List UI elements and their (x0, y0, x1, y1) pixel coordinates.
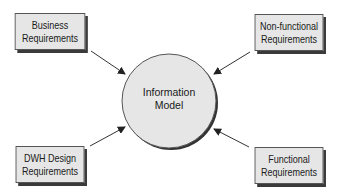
information-model-label: Information Model (122, 86, 216, 112)
dwh-design-requirements-box: DWH Design Requirements (16, 146, 85, 183)
arrow-functional-to-model (214, 129, 249, 147)
functional-line1: Functional (261, 153, 317, 166)
business-line1: Business (22, 19, 78, 32)
business-requirements-box: Business Requirements (15, 13, 86, 50)
dwh-line2: Requirements (22, 165, 78, 178)
nonfunctional-requirements-box: Non-functional Requirements (255, 14, 324, 51)
center-label-line1: Information (143, 86, 196, 98)
arrow-dwh-to-model (90, 127, 125, 146)
arrow-business-to-model (91, 51, 125, 74)
business-line2: Requirements (22, 32, 78, 45)
functional-requirements-box: Functional Requirements (255, 147, 324, 184)
dwh-line1: DWH Design (22, 152, 78, 165)
arrow-nonfunctional-to-model (214, 52, 250, 74)
center-label-line2: Model (155, 99, 184, 111)
functional-line2: Requirements (261, 166, 317, 179)
nonfunctional-line2: Requirements (260, 33, 318, 46)
nonfunctional-line1: Non-functional (260, 20, 318, 33)
